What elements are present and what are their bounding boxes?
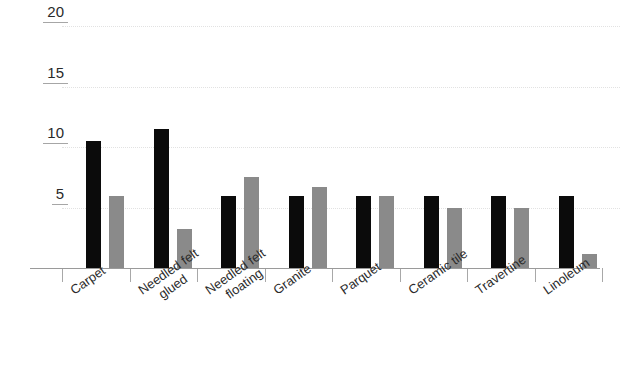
bar-series-1 [559,196,574,268]
bar-series-1 [491,196,506,268]
gridline-5 [62,208,620,209]
gridline-15 [62,87,620,88]
category-tick [467,268,468,282]
bar-chart: 5101520 CarpetNeedled feltgluedNeedled f… [0,0,630,366]
bar-series-1 [356,196,371,268]
y-axis-tick-value: 15 [43,65,68,84]
y-axis-tick-value: 20 [43,4,68,23]
bar-series-1 [424,196,439,268]
category-tick [400,268,401,282]
category-tick [332,268,333,282]
category-tick [602,268,603,282]
y-axis-tick-value: 10 [43,125,68,144]
bar-series-1 [221,196,236,268]
bar-series-1 [289,196,304,268]
bar-series-1 [154,129,169,268]
y-axis-tick-label-10: 10 [20,125,68,144]
bar-series-2 [109,196,124,268]
y-axis-tick-label-5: 5 [20,186,68,205]
category-tick [62,268,63,282]
y-axis-tick-label-15: 15 [20,65,68,84]
y-axis-tick-label-20: 20 [20,4,68,23]
gridline-20 [62,26,620,27]
y-axis-tick-value: 5 [52,186,68,205]
bar-series-1 [86,141,101,268]
category-tick [535,268,536,282]
category-label-1: Needled feltglued [136,246,210,310]
bar-series-2 [379,196,394,268]
category-tick [130,268,131,282]
gridline-10 [62,147,620,148]
bar-series-2 [312,187,327,268]
